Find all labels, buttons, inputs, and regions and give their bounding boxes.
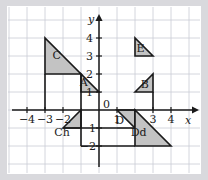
y-tick-label-3: 3 [86, 50, 93, 63]
y-tick-label--1: 1 [89, 122, 96, 135]
y-tick-label-4: 4 [86, 32, 93, 45]
x-axis-label: x [185, 114, 192, 127]
shape-label-e: E [136, 42, 144, 55]
plot-paper: −4−3−2134432101−2xyCAChEBDDd [8, 7, 200, 173]
shape-label-a: A [79, 76, 89, 89]
y-axis-arrowhead [95, 14, 102, 21]
shape-label-d: D [115, 114, 124, 127]
x-tick-label--3: −3 [37, 113, 53, 126]
x-tick-label-3: 3 [150, 113, 157, 126]
grid-lines [8, 7, 200, 173]
shape-label-ch: Ch [54, 126, 70, 139]
shape-label-dd: Dd [131, 126, 147, 139]
coordinate-plane-plot: −4−3−2134432101−2xyCAChEBDDd [8, 7, 200, 173]
shape-label-c: C [52, 49, 60, 62]
x-tick-label--4: −4 [19, 113, 35, 126]
origin-label: 0 [103, 98, 110, 111]
x-tick-label-4: 4 [168, 113, 175, 126]
y-axis-label: y [87, 13, 95, 26]
shape-label-b: B [141, 78, 149, 91]
figure-container: −4−3−2134432101−2xyCAChEBDDd [0, 0, 208, 180]
x-tick-label--2: −2 [55, 113, 71, 126]
x-axis-arrowhead [192, 106, 199, 113]
y-tick-label--2: −2 [80, 140, 96, 153]
